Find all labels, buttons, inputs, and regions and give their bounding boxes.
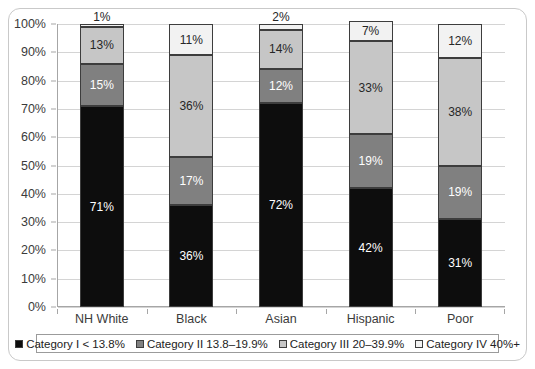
bar-segment[interactable]: 7%	[349, 21, 393, 41]
y-tick-mark	[51, 80, 56, 81]
legend-item[interactable]: Category II 13.8–19.9%	[136, 338, 268, 350]
y-tick-label: 10%	[21, 272, 46, 286]
bar-segment[interactable]: 12%	[259, 69, 303, 103]
bar-segment-value: 71%	[90, 201, 114, 213]
bar-group[interactable]: 42%19%33%7%	[349, 24, 393, 307]
bar-segment-value: 36%	[179, 250, 203, 262]
bar-segment[interactable]: 36%	[169, 205, 213, 307]
bar-stack: 72%12%14%2%	[259, 24, 303, 307]
y-tick-mark	[51, 108, 56, 109]
y-tick-label: 70%	[21, 102, 46, 116]
bar-segment-value: 13%	[90, 39, 114, 51]
bar-segment[interactable]: 15%	[80, 64, 124, 106]
bar-stack: 36%17%36%11%	[169, 24, 213, 307]
bar-segment-value: 72%	[269, 199, 293, 211]
bar-segment[interactable]: 42%	[349, 188, 393, 307]
x-tick-mark	[57, 309, 58, 314]
bar-segment-value: 36%	[179, 100, 203, 112]
x-tick-mark	[504, 309, 505, 314]
y-tick-label: 20%	[21, 243, 46, 257]
bar-segment-value: 19%	[359, 155, 383, 167]
y-tick-label: 80%	[21, 74, 46, 88]
bar-segment[interactable]: 11%	[169, 24, 213, 55]
legend-item[interactable]: Category IV 40%+	[415, 338, 520, 350]
x-axis: NH WhiteBlackAsianHispanicPoor	[57, 309, 505, 331]
bar-segment-value: 33%	[359, 82, 383, 94]
bar-group[interactable]: 36%17%36%11%	[169, 24, 213, 307]
legend-label: Category II 13.8–19.9%	[147, 338, 268, 350]
x-tick-label: Hispanic	[347, 312, 395, 326]
legend-swatch-icon	[136, 340, 144, 348]
x-tick-label: Poor	[447, 312, 473, 326]
y-tick-mark	[51, 250, 56, 251]
bar-segment-value: 11%	[180, 34, 203, 46]
x-tick-mark	[147, 309, 148, 314]
bar-segment[interactable]: 72%	[259, 103, 303, 307]
bar-segment[interactable]: 19%	[349, 134, 393, 188]
bars-layer: 71%15%13%1%36%17%36%11%72%12%14%2%42%19%…	[57, 24, 505, 307]
bar-segment-value: 15%	[90, 79, 114, 91]
bar-segment-value: 1%	[93, 11, 110, 23]
y-tick-mark	[51, 278, 56, 279]
bar-segment-value: 31%	[448, 257, 472, 269]
bar-segment[interactable]: 17%	[169, 157, 213, 205]
y-tick-mark	[51, 52, 56, 53]
legend-item[interactable]: Category III 20–39.9%	[279, 338, 404, 350]
y-tick-label: 0%	[28, 300, 46, 314]
y-tick-label: 50%	[21, 159, 46, 173]
bar-stack: 42%19%33%7%	[349, 24, 393, 307]
y-tick-mark	[51, 165, 56, 166]
bar-group[interactable]: 71%15%13%1%	[80, 24, 124, 307]
y-tick-label: 100%	[14, 17, 46, 31]
y-tick-mark	[51, 222, 56, 223]
bar-segment-value: 12%	[269, 80, 293, 92]
y-tick-label: 90%	[21, 45, 46, 59]
x-tick-mark	[326, 309, 327, 314]
legend-swatch-icon	[15, 340, 23, 348]
y-tick-mark	[51, 193, 56, 194]
x-tick-label: Asian	[265, 312, 296, 326]
bar-segment[interactable]: 36%	[169, 55, 213, 157]
legend-swatch-icon	[415, 340, 423, 348]
bar-segment-value: 12%	[448, 35, 472, 47]
y-tick-mark	[51, 307, 56, 308]
bar-segment-value: 17%	[179, 175, 203, 187]
bar-segment-value: 42%	[359, 242, 383, 254]
x-tick-label: NH White	[75, 312, 128, 326]
bar-segment[interactable]: 71%	[80, 106, 124, 307]
bar-group[interactable]: 72%12%14%2%	[259, 24, 303, 307]
legend-swatch-icon	[279, 340, 287, 348]
legend-label: Category I < 13.8%	[26, 338, 125, 350]
bar-segment-value: 14%	[269, 43, 293, 55]
legend-item[interactable]: Category I < 13.8%	[15, 338, 125, 350]
y-tick-mark	[51, 24, 56, 25]
legend-label: Category III 20–39.9%	[290, 338, 404, 350]
bar-segment[interactable]: 31%	[438, 219, 482, 307]
bar-stack: 31%19%38%12%	[438, 24, 482, 307]
bar-segment[interactable]: 38%	[438, 58, 482, 166]
stacked-bar-chart: 0%10%20%30%40%50%60%70%80%90%100% 71%15%…	[0, 0, 535, 369]
gridline	[58, 307, 505, 308]
bar-stack: 71%15%13%1%	[80, 24, 124, 307]
bar-segment[interactable]: 12%	[438, 24, 482, 58]
y-tick-label: 30%	[21, 215, 46, 229]
legend-label: Category IV 40%+	[426, 338, 520, 350]
x-tick-mark	[236, 309, 237, 314]
y-tick-label: 60%	[21, 130, 46, 144]
bar-segment[interactable]: 1%	[80, 24, 124, 27]
y-tick-label: 40%	[21, 187, 46, 201]
bar-segment[interactable]: 19%	[438, 166, 482, 220]
bar-segment-value: 7%	[362, 25, 379, 37]
chart-legend: Category I < 13.8%Category II 13.8–19.9%…	[36, 334, 499, 353]
x-tick-label: Black	[176, 312, 207, 326]
x-tick-mark	[415, 309, 416, 314]
bar-segment[interactable]: 2%	[259, 24, 303, 30]
bar-segment[interactable]: 14%	[259, 30, 303, 70]
y-tick-mark	[51, 137, 56, 138]
bar-segment[interactable]: 33%	[349, 41, 393, 134]
y-axis: 0%10%20%30%40%50%60%70%80%90%100%	[0, 24, 52, 307]
bar-segment[interactable]: 13%	[80, 27, 124, 64]
bar-group[interactable]: 31%19%38%12%	[438, 24, 482, 307]
bar-segment-value: 2%	[272, 11, 289, 23]
bar-segment-value: 38%	[448, 106, 472, 118]
